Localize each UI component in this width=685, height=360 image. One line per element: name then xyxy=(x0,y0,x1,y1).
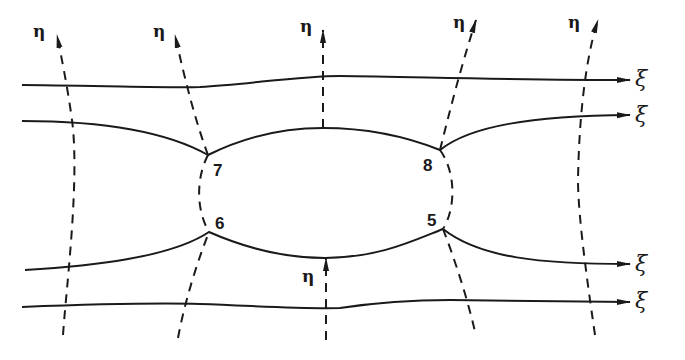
eta-label-1: η xyxy=(33,23,45,40)
xi-label-2: ξ xyxy=(635,104,647,126)
eta-label-6: η xyxy=(302,268,314,285)
eta-line-2-upper xyxy=(175,35,208,155)
eta-label-5: η xyxy=(568,14,580,31)
boundary-left-7-6 xyxy=(199,155,209,232)
eta-label-2: η xyxy=(153,23,165,40)
node-label-8: 8 xyxy=(423,157,432,174)
xi-line-3 xyxy=(25,229,630,270)
eta-line-1 xyxy=(57,35,74,335)
node-label-5: 5 xyxy=(427,212,436,229)
xi-line-1 xyxy=(22,76,630,87)
xi-label-3: ξ xyxy=(635,253,647,275)
grid-diagram xyxy=(0,0,685,360)
eta-line-5 xyxy=(578,20,598,335)
eta-label-4: η xyxy=(453,14,465,31)
xi-label-1: ξ xyxy=(635,68,647,90)
node-label-6: 6 xyxy=(215,215,224,232)
eta-line-4-upper xyxy=(440,20,476,150)
eta-label-3: η xyxy=(300,18,312,35)
xi-line-2 xyxy=(22,115,630,155)
eta-line-2-lower xyxy=(178,232,209,338)
node-label-7: 7 xyxy=(213,162,222,179)
xi-label-4: ξ xyxy=(635,290,647,312)
boundary-right-8-5 xyxy=(440,150,452,229)
